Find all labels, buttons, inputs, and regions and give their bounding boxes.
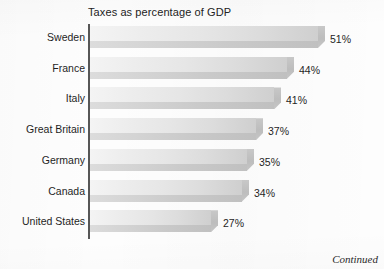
bar: [90, 180, 242, 202]
bar-row: Sweden51%: [0, 24, 384, 54]
bar: [90, 210, 211, 232]
bar-row: Great Britain37%: [0, 116, 384, 146]
bar-front-face: [90, 225, 211, 232]
bar-row: Germany35%: [0, 147, 384, 177]
bar-front-face: [90, 133, 256, 140]
bar-end-cap: [256, 118, 263, 140]
bar-end-cap: [247, 149, 254, 171]
bar-chart-figure: Taxes as percentage of GDP Sweden51%Fran…: [0, 0, 384, 269]
bar-top-face: [90, 57, 287, 72]
bar-top-face: [90, 118, 256, 133]
bar-end-cap: [242, 180, 249, 202]
category-label: Canada: [48, 185, 85, 197]
category-label: Sweden: [47, 31, 85, 43]
bar-front-face: [90, 72, 287, 79]
bar-row: Italy41%: [0, 85, 384, 115]
continued-footer-label: Continued: [332, 253, 378, 265]
bar-end-cap: [318, 26, 325, 48]
category-label: United States: [22, 215, 85, 227]
category-label: Great Britain: [26, 123, 85, 135]
category-label: Germany: [42, 154, 85, 166]
plot-area: Sweden51%France44%Italy41%Great Britain3…: [0, 24, 384, 239]
bar: [90, 118, 256, 140]
bar: [90, 149, 247, 171]
category-label: France: [52, 62, 85, 74]
bar-top-face: [90, 87, 274, 102]
bar-row: United States27%: [0, 208, 384, 238]
chart-title: Taxes as percentage of GDP: [88, 6, 231, 18]
bar-end-cap: [211, 210, 218, 232]
bar-value-label: 35%: [259, 156, 280, 168]
bar-top-face: [90, 149, 247, 164]
bar-top-face: [90, 26, 318, 41]
bar-top-face: [90, 180, 242, 195]
bar-end-cap: [274, 87, 281, 109]
bar: [90, 87, 274, 109]
bar-end-cap: [287, 57, 294, 79]
bar-value-label: 41%: [286, 94, 307, 106]
bar-value-label: 37%: [268, 125, 289, 137]
bar-top-face: [90, 210, 211, 225]
bar-row: Canada34%: [0, 178, 384, 208]
bar: [90, 26, 318, 48]
bar-value-label: 51%: [330, 33, 351, 45]
bar-front-face: [90, 164, 247, 171]
bar-front-face: [90, 41, 318, 48]
category-label: Italy: [66, 92, 85, 104]
bar-front-face: [90, 195, 242, 202]
bar: [90, 57, 287, 79]
bar-front-face: [90, 102, 274, 109]
bar-value-label: 27%: [223, 217, 244, 229]
bar-row: France44%: [0, 55, 384, 85]
bar-value-label: 44%: [299, 64, 320, 76]
bar-value-label: 34%: [254, 187, 275, 199]
